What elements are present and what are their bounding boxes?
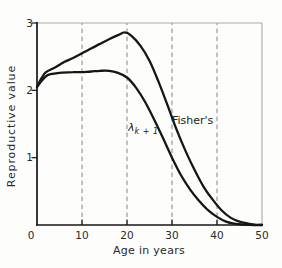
reproductive-value-figure: Reproductive value Age in years Fisher's… — [0, 0, 282, 268]
x-tick-label-30: 30 — [157, 229, 187, 242]
x-tick-label-50: 50 — [247, 229, 277, 242]
x-axis-label: Age in years — [113, 244, 185, 257]
lambda-curve-label: λk + 1 — [128, 121, 159, 136]
x-tick-label-0: 0 — [16, 229, 46, 242]
y-tick-label-2: 2 — [0, 84, 33, 97]
x-tick-label-20: 20 — [112, 229, 142, 242]
fisher-curve-label: Fisher's — [172, 114, 213, 127]
x-tick-label-40: 40 — [202, 229, 232, 242]
lambda-subscript: k + 1 — [135, 127, 159, 136]
y-tick-label-3: 3 — [0, 17, 33, 30]
curve-lambda — [37, 71, 262, 225]
y-tick-label-1: 1 — [0, 151, 33, 164]
x-tick-label-10: 10 — [67, 229, 97, 242]
